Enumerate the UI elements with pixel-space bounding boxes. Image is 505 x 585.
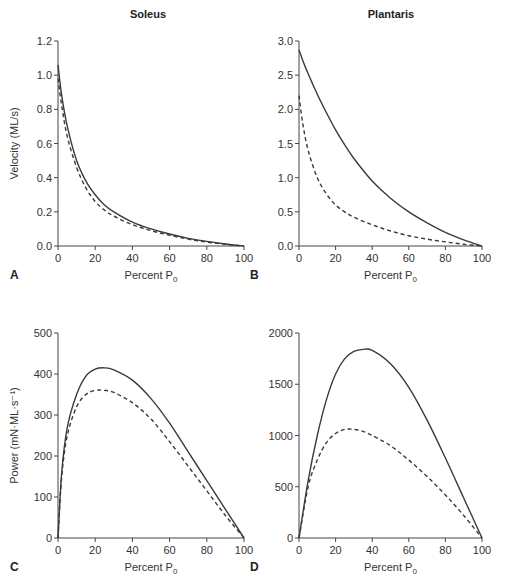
panel-letter: A — [10, 268, 19, 282]
x-tick-label: 40 — [126, 544, 138, 556]
y-tick-label: 1000 — [269, 430, 293, 442]
y-tick-label: 1.2 — [37, 35, 52, 47]
series-dashed-line — [299, 96, 482, 246]
series-solid-line — [58, 368, 244, 538]
x-tick-label: 80 — [439, 252, 451, 264]
y-tick-label: 400 — [34, 368, 52, 380]
x-tick-label: 0 — [55, 252, 61, 264]
y-tick-label: 0.4 — [37, 172, 52, 184]
y-tick-label: 1.5 — [278, 138, 293, 150]
y-tick-label: 0.0 — [278, 240, 293, 252]
y-tick-label: 500 — [275, 481, 293, 493]
panel-d: 0500100015002000020406080100Percent P0D — [250, 327, 491, 576]
y-tick-label: 0.0 — [37, 240, 52, 252]
panel-letter: D — [250, 560, 259, 574]
x-tick-label: 60 — [163, 544, 175, 556]
series-solid-line — [58, 65, 244, 246]
y-tick-label: 0.2 — [37, 206, 52, 218]
y-tick-label: 1500 — [269, 378, 293, 390]
x-tick-label: 20 — [89, 544, 101, 556]
series-dashed-line — [58, 79, 244, 246]
x-axis-title: Percent P0 — [125, 269, 178, 284]
y-tick-label: 0.5 — [278, 206, 293, 218]
panel-b: 0.00.51.01.52.02.53.0020406080100Percent… — [250, 35, 491, 284]
y-axis-title: Power (mN·ML·s⁻¹) — [8, 387, 20, 483]
y-tick-label: 2.0 — [278, 103, 293, 115]
x-tick-label: 80 — [439, 544, 451, 556]
x-axis-title: Percent P0 — [125, 561, 178, 576]
y-tick-label: 1.0 — [37, 69, 52, 81]
column-title-soleus: Soleus — [130, 8, 166, 20]
x-tick-label: 80 — [201, 252, 213, 264]
y-tick-label: 0.6 — [37, 138, 52, 150]
y-tick-label: 2000 — [269, 327, 293, 339]
y-tick-label: 0 — [46, 532, 52, 544]
panel-letter: C — [10, 560, 19, 574]
y-tick-label: 300 — [34, 409, 52, 421]
x-tick-label: 100 — [235, 252, 253, 264]
x-tick-label: 20 — [329, 544, 341, 556]
x-tick-label: 100 — [235, 544, 253, 556]
series-dashed-line — [299, 429, 482, 538]
x-tick-label: 20 — [89, 252, 101, 264]
series-dashed-line — [58, 390, 244, 538]
x-tick-label: 100 — [473, 252, 491, 264]
x-axis-title: Percent P0 — [364, 561, 417, 576]
series-solid-line — [299, 50, 482, 246]
x-tick-label: 60 — [403, 544, 415, 556]
x-tick-label: 20 — [329, 252, 341, 264]
figure-canvas: Soleus Plantaris 0.00.20.40.60.81.01.202… — [0, 0, 505, 585]
x-tick-label: 0 — [55, 544, 61, 556]
y-tick-label: 3.0 — [278, 35, 293, 47]
y-tick-label: 500 — [34, 327, 52, 339]
x-tick-label: 80 — [201, 544, 213, 556]
x-tick-label: 100 — [473, 544, 491, 556]
x-tick-label: 40 — [366, 544, 378, 556]
y-tick-label: 0.8 — [37, 103, 52, 115]
y-axis-title: Velocity (ML/s) — [8, 107, 20, 179]
column-title-plantaris: Plantaris — [368, 8, 414, 20]
x-tick-label: 60 — [403, 252, 415, 264]
y-tick-label: 2.5 — [278, 69, 293, 81]
x-tick-label: 60 — [163, 252, 175, 264]
x-tick-label: 0 — [296, 544, 302, 556]
x-tick-label: 0 — [296, 252, 302, 264]
x-axis-title: Percent P0 — [364, 269, 417, 284]
panel-c: 0100200300400500020406080100Percent P0CP… — [8, 327, 253, 576]
panel-a: 0.00.20.40.60.81.01.2020406080100Percent… — [8, 35, 253, 284]
y-tick-label: 100 — [34, 491, 52, 503]
panel-letter: B — [250, 268, 259, 282]
y-tick-label: 200 — [34, 450, 52, 462]
x-tick-label: 40 — [366, 252, 378, 264]
y-tick-label: 1.0 — [278, 172, 293, 184]
x-tick-label: 40 — [126, 252, 138, 264]
y-tick-label: 0 — [287, 532, 293, 544]
